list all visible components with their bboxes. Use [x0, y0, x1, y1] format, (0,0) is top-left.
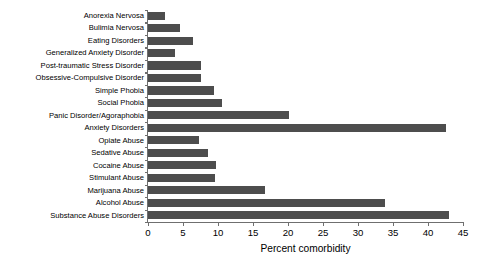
x-axis-tick-label: 10: [203, 227, 233, 239]
x-axis-tick-label: 35: [378, 227, 408, 239]
x-axis-tick-label: 5: [168, 227, 198, 239]
y-axis-tick: [145, 97, 149, 98]
y-axis-tick: [145, 122, 149, 123]
category-label: Opiate Abuse: [0, 135, 144, 147]
x-axis-line: [147, 222, 464, 223]
y-axis-tick: [145, 22, 149, 23]
category-label: Generalized Anxiety Disorder: [0, 47, 144, 59]
bar: [148, 186, 265, 194]
x-axis-tick: [358, 222, 359, 226]
category-label: Eating Disorders: [0, 35, 144, 47]
bar-row: [148, 135, 463, 147]
y-axis-tick: [145, 197, 149, 198]
x-axis-tick: [288, 222, 289, 226]
category-label: Cocaine Abuse: [0, 160, 144, 172]
category-label-column: Anorexia NervosaBulimia NervosaEating Di…: [0, 10, 144, 222]
x-axis-tick-label: 0: [133, 227, 163, 239]
y-axis-tick: [145, 147, 149, 148]
category-label: Simple Phobia: [0, 85, 144, 97]
bar-row: [148, 35, 463, 47]
category-label: Stimulant Abuse: [0, 172, 144, 184]
x-axis-tick: [218, 222, 219, 226]
comorbidity-bar-chart: Anorexia NervosaBulimia NervosaEating Di…: [0, 0, 489, 268]
bar-row: [148, 210, 463, 222]
y-axis-tick: [145, 135, 149, 136]
bar: [148, 136, 199, 144]
x-axis-tick: [393, 222, 394, 226]
y-axis-tick: [145, 72, 149, 73]
x-axis-tick: [253, 222, 254, 226]
plot-area: [148, 10, 463, 222]
x-axis-tick: [428, 222, 429, 226]
x-axis-tick: [183, 222, 184, 226]
bar-row: [148, 147, 463, 159]
bar: [148, 111, 289, 119]
bar-row: [148, 197, 463, 209]
y-axis-tick: [145, 47, 149, 48]
x-axis-tick-label: 15: [238, 227, 268, 239]
bar: [148, 74, 201, 82]
x-axis-tick: [323, 222, 324, 226]
bar-row: [148, 47, 463, 59]
category-label: Anorexia Nervosa: [0, 10, 144, 22]
y-axis-tick: [145, 172, 149, 173]
category-label: Anxiety Disorders: [0, 122, 144, 134]
x-axis-title: Percent comorbidity: [148, 243, 463, 254]
y-axis-tick: [145, 185, 149, 186]
bar-row: [148, 160, 463, 172]
y-axis-tick: [145, 160, 149, 161]
category-label: Social Phobia: [0, 97, 144, 109]
x-axis-tick-label: 25: [308, 227, 338, 239]
bar: [148, 211, 449, 219]
bar-row: [148, 172, 463, 184]
y-axis-tick: [145, 85, 149, 86]
bar-row: [148, 185, 463, 197]
bar: [148, 99, 222, 107]
y-axis-tick: [145, 210, 149, 211]
bar: [148, 12, 165, 20]
category-label: Bulimia Nervosa: [0, 22, 144, 34]
x-axis-tick-label: 45: [448, 227, 478, 239]
category-label: Sedative Abuse: [0, 147, 144, 159]
x-axis-tick-label: 40: [413, 227, 443, 239]
bar: [148, 161, 216, 169]
y-axis-tick: [145, 110, 149, 111]
x-axis-tick: [463, 222, 464, 226]
category-label: Substance Abuse Disorders: [0, 210, 144, 222]
x-axis-tick-label: 30: [343, 227, 373, 239]
y-axis-tick: [145, 35, 149, 36]
category-label: Alcohol Abuse: [0, 197, 144, 209]
bar-row: [148, 97, 463, 109]
bar-row: [148, 60, 463, 72]
bar-row: [148, 22, 463, 34]
category-label: Marijuana Abuse: [0, 185, 144, 197]
x-axis-tick-label: 20: [273, 227, 303, 239]
bar-row: [148, 122, 463, 134]
x-axis-tick: [148, 222, 149, 226]
bar: [148, 49, 175, 57]
bar-row: [148, 110, 463, 122]
bar-row: [148, 10, 463, 22]
bar-row: [148, 85, 463, 97]
bar: [148, 149, 208, 157]
category-label: Post-traumatic Stress Disorder: [0, 60, 144, 72]
bar: [148, 174, 215, 182]
bar: [148, 61, 201, 69]
bar: [148, 86, 214, 94]
bar: [148, 124, 446, 132]
y-axis-tick: [145, 10, 149, 11]
y-axis-tick: [145, 60, 149, 61]
bar-row: [148, 72, 463, 84]
category-label: Obsessive-Compulsive Disorder: [0, 72, 144, 84]
bar: [148, 37, 193, 45]
category-label: Panic Disorder/Agoraphobia: [0, 110, 144, 122]
bar: [148, 24, 180, 32]
bar: [148, 199, 385, 207]
